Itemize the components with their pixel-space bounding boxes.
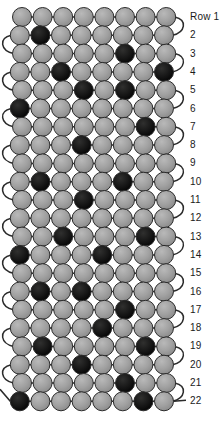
gray-bead[interactable]: [31, 319, 50, 338]
gray-bead[interactable]: [113, 245, 132, 264]
gray-bead[interactable]: [72, 26, 91, 45]
gray-bead[interactable]: [52, 209, 71, 228]
gray-bead[interactable]: [33, 374, 52, 393]
gray-bead[interactable]: [33, 264, 52, 283]
gray-bead[interactable]: [155, 99, 174, 118]
gray-bead[interactable]: [31, 136, 50, 155]
gray-bead[interactable]: [155, 26, 174, 45]
gray-bead[interactable]: [113, 282, 132, 301]
gray-bead[interactable]: [13, 44, 32, 63]
gray-bead[interactable]: [134, 136, 153, 155]
gray-bead[interactable]: [10, 355, 29, 374]
gray-bead[interactable]: [54, 374, 73, 393]
gray-bead[interactable]: [31, 209, 50, 228]
gray-bead[interactable]: [10, 136, 29, 155]
dark-bead[interactable]: [116, 300, 135, 319]
gray-bead[interactable]: [136, 8, 155, 27]
dark-bead[interactable]: [72, 282, 91, 301]
gray-bead[interactable]: [136, 44, 155, 63]
gray-bead[interactable]: [95, 154, 114, 173]
gray-bead[interactable]: [95, 227, 114, 246]
dark-bead[interactable]: [116, 44, 135, 63]
dark-bead[interactable]: [134, 392, 153, 411]
dark-bead[interactable]: [31, 172, 50, 191]
gray-bead[interactable]: [52, 172, 71, 191]
gray-bead[interactable]: [31, 62, 50, 81]
gray-bead[interactable]: [31, 392, 50, 411]
gray-bead[interactable]: [157, 8, 176, 27]
gray-bead[interactable]: [52, 319, 71, 338]
gray-bead[interactable]: [72, 172, 91, 191]
gray-bead[interactable]: [157, 117, 176, 136]
gray-bead[interactable]: [13, 264, 32, 283]
dark-bead[interactable]: [54, 227, 73, 246]
gray-bead[interactable]: [95, 374, 114, 393]
gray-bead[interactable]: [52, 392, 71, 411]
gray-bead[interactable]: [93, 282, 112, 301]
gray-bead[interactable]: [31, 245, 50, 264]
gray-bead[interactable]: [116, 117, 135, 136]
gray-bead[interactable]: [33, 81, 52, 100]
dark-bead[interactable]: [10, 245, 29, 264]
gray-bead[interactable]: [134, 62, 153, 81]
dark-bead[interactable]: [10, 99, 29, 118]
gray-bead[interactable]: [10, 209, 29, 228]
gray-bead[interactable]: [54, 81, 73, 100]
gray-bead[interactable]: [74, 300, 93, 319]
gray-bead[interactable]: [74, 264, 93, 283]
gray-bead[interactable]: [93, 355, 112, 374]
gray-bead[interactable]: [157, 264, 176, 283]
gray-bead[interactable]: [10, 172, 29, 191]
gray-bead[interactable]: [136, 374, 155, 393]
gray-bead[interactable]: [74, 374, 93, 393]
gray-bead[interactable]: [157, 374, 176, 393]
gray-bead[interactable]: [54, 117, 73, 136]
gray-bead[interactable]: [72, 99, 91, 118]
dark-bead[interactable]: [31, 26, 50, 45]
dark-bead[interactable]: [72, 355, 91, 374]
gray-bead[interactable]: [136, 264, 155, 283]
gray-bead[interactable]: [52, 99, 71, 118]
gray-bead[interactable]: [93, 26, 112, 45]
gray-bead[interactable]: [95, 8, 114, 27]
gray-bead[interactable]: [54, 337, 73, 356]
gray-bead[interactable]: [54, 264, 73, 283]
gray-bead[interactable]: [95, 337, 114, 356]
gray-bead[interactable]: [95, 264, 114, 283]
gray-bead[interactable]: [13, 300, 32, 319]
gray-bead[interactable]: [13, 8, 32, 27]
gray-bead[interactable]: [116, 154, 135, 173]
gray-bead[interactable]: [72, 209, 91, 228]
gray-bead[interactable]: [74, 44, 93, 63]
gray-bead[interactable]: [155, 319, 174, 338]
gray-bead[interactable]: [13, 374, 32, 393]
gray-bead[interactable]: [93, 99, 112, 118]
gray-bead[interactable]: [155, 392, 174, 411]
gray-bead[interactable]: [33, 227, 52, 246]
gray-bead[interactable]: [155, 282, 174, 301]
gray-bead[interactable]: [95, 44, 114, 63]
gray-bead[interactable]: [116, 8, 135, 27]
gray-bead[interactable]: [134, 99, 153, 118]
gray-bead[interactable]: [72, 319, 91, 338]
gray-bead[interactable]: [134, 355, 153, 374]
gray-bead[interactable]: [95, 81, 114, 100]
gray-bead[interactable]: [116, 191, 135, 210]
gray-bead[interactable]: [33, 154, 52, 173]
gray-bead[interactable]: [13, 337, 32, 356]
gray-bead[interactable]: [157, 337, 176, 356]
gray-bead[interactable]: [54, 154, 73, 173]
gray-bead[interactable]: [155, 172, 174, 191]
gray-bead[interactable]: [155, 209, 174, 228]
gray-bead[interactable]: [113, 62, 132, 81]
gray-bead[interactable]: [157, 154, 176, 173]
gray-bead[interactable]: [95, 191, 114, 210]
gray-bead[interactable]: [52, 26, 71, 45]
gray-bead[interactable]: [13, 227, 32, 246]
dark-bead[interactable]: [31, 282, 50, 301]
gray-bead[interactable]: [155, 355, 174, 374]
dark-bead[interactable]: [155, 62, 174, 81]
gray-bead[interactable]: [72, 62, 91, 81]
dark-bead[interactable]: [74, 191, 93, 210]
gray-bead[interactable]: [113, 319, 132, 338]
